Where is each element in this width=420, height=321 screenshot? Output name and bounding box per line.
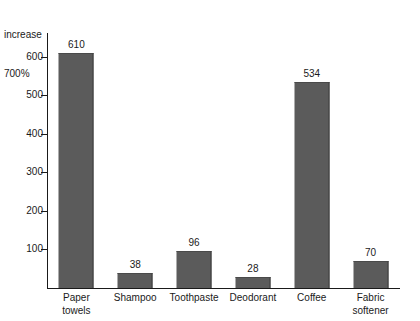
x-axis-label: Toothpaste: [165, 291, 224, 304]
x-axis-label: Fabricsoftener: [341, 291, 400, 317]
x-axis-label-line: Fabric: [341, 291, 400, 304]
x-axis-label: Coffee: [282, 291, 341, 304]
x-axis-label-line: Coffee: [282, 291, 341, 304]
y-tick-label: 600: [26, 50, 43, 63]
y-tick-label: 200: [26, 204, 43, 217]
x-axis-labels: PapertowelsShampooToothpasteDeodorantCof…: [47, 291, 400, 321]
bar-slot: 96: [165, 33, 224, 288]
bar-slot: 70: [341, 33, 400, 288]
x-axis-line: [47, 288, 400, 289]
bar[interactable]: [118, 273, 153, 288]
x-axis-label: Shampoo: [106, 291, 165, 304]
y-axis-title-line-1: increase: [4, 28, 42, 41]
x-axis-label: Papertowels: [47, 291, 106, 317]
y-tick-label: 300: [26, 165, 43, 178]
bar[interactable]: [59, 53, 94, 288]
x-axis-label: Deodorant: [224, 291, 283, 304]
x-axis-label-line: towels: [47, 304, 106, 317]
bar-value-label: 96: [189, 237, 200, 249]
plot-area: 100200300400500600 61038962853470: [47, 33, 400, 288]
bar-value-label: 38: [130, 259, 141, 271]
bar-value-label: 70: [365, 247, 376, 259]
bar[interactable]: [294, 82, 329, 288]
bar-value-label: 610: [68, 39, 85, 51]
bar-slot: 534: [282, 33, 341, 288]
x-axis-label-line: softener: [341, 304, 400, 317]
bar-slot: 38: [106, 33, 165, 288]
bar-value-label: 28: [247, 263, 258, 275]
y-tick-label: 100: [26, 242, 43, 255]
x-axis-label-line: Paper: [47, 291, 106, 304]
bar[interactable]: [353, 261, 388, 288]
bar-slot: 610: [47, 33, 106, 288]
y-axis-title-line-2: 700%: [4, 67, 42, 80]
bar-value-label: 534: [303, 68, 320, 80]
x-axis-label-line: Toothpaste: [165, 291, 224, 304]
y-tick-label: 500: [26, 88, 43, 101]
x-axis-label-line: Deodorant: [224, 291, 283, 304]
x-axis-label-line: Shampoo: [106, 291, 165, 304]
bar-series: 61038962853470: [47, 33, 400, 288]
y-tick-label: 400: [26, 127, 43, 140]
bar[interactable]: [235, 277, 270, 288]
bar-slot: 28: [224, 33, 283, 288]
bar[interactable]: [177, 251, 212, 288]
bar-chart: increase 700% 100200300400500600 6103896…: [0, 0, 420, 321]
